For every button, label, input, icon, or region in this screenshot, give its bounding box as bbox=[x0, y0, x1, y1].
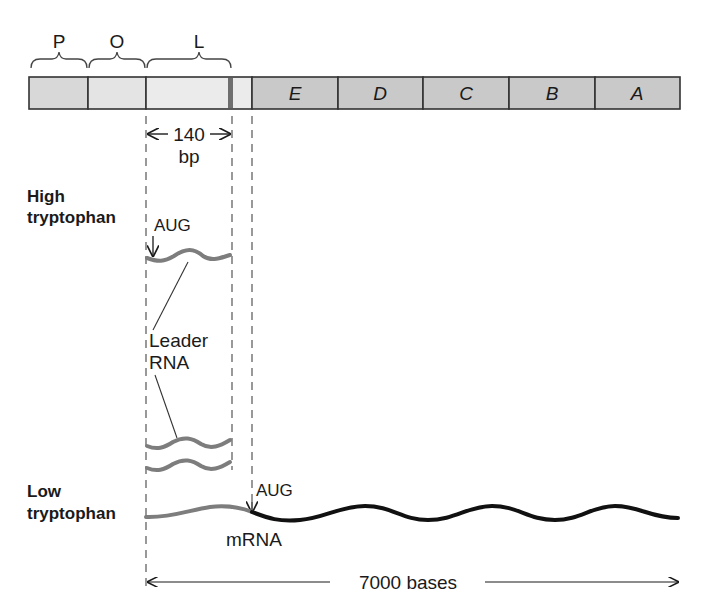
operon-bar bbox=[29, 77, 680, 109]
leader-rna-label-line1: Leader bbox=[149, 330, 209, 351]
leader-rna-label-line2: RNA bbox=[149, 352, 189, 373]
gene-label-d: D bbox=[373, 83, 387, 104]
attenuator-marker bbox=[228, 78, 233, 108]
region-label-l: L bbox=[194, 31, 205, 52]
mrna-leader-segment bbox=[146, 506, 252, 517]
region-label-o: O bbox=[110, 31, 125, 52]
high-trp-label-line2: tryptophan bbox=[27, 208, 116, 227]
region-braces bbox=[31, 52, 231, 68]
mrna-label: mRNA bbox=[226, 529, 282, 550]
gene-label-c: C bbox=[459, 83, 473, 104]
mrna-coding-segment bbox=[252, 506, 678, 521]
high-trp-label-line1: High bbox=[27, 187, 65, 206]
brace-o bbox=[89, 52, 145, 68]
leader-rna-wave-2 bbox=[147, 438, 230, 448]
gene-label-b: B bbox=[546, 83, 559, 104]
high-trp-aug-label: AUG bbox=[154, 216, 191, 235]
brace-p bbox=[31, 52, 87, 68]
gene-label-a: A bbox=[630, 83, 644, 104]
region-label-p: P bbox=[53, 31, 66, 52]
leader-rna-wave-3 bbox=[147, 460, 230, 470]
leader-rna-pointer-bottom bbox=[155, 375, 177, 438]
segment-operator bbox=[88, 77, 146, 109]
brace-l bbox=[147, 52, 231, 68]
transcript-length-label: 7000 bases bbox=[359, 572, 457, 593]
leader-rna-pointer-top bbox=[153, 262, 188, 330]
leader-length-value: 140 bbox=[173, 124, 205, 145]
leader-rna-wave-1 bbox=[147, 250, 230, 261]
low-trp-label-line2: tryptophan bbox=[27, 504, 116, 523]
low-trp-label-line1: Low bbox=[27, 482, 62, 501]
gene-label-e: E bbox=[289, 83, 302, 104]
leader-length-unit: bp bbox=[178, 146, 199, 167]
low-trp-aug-label: AUG bbox=[256, 481, 293, 500]
trp-operon-diagram: P O L E D C B A 140 bp High tryptophan A… bbox=[0, 0, 703, 610]
segment-promoter bbox=[29, 77, 88, 109]
segment-leader bbox=[146, 77, 252, 109]
